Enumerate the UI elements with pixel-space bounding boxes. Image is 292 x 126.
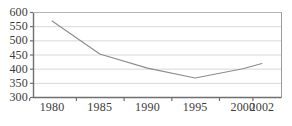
x-axis-label-1995: 1995 — [183, 101, 208, 113]
line-chart: 300350400450500550600 198019851990199520… — [0, 0, 292, 126]
x-axis-label-2002: 2002 — [250, 101, 275, 113]
x-axis-tick-labels: 198019851990199520002002 — [0, 0, 292, 126]
x-axis-label-1980: 1980 — [40, 101, 65, 113]
x-axis-label-1985: 1985 — [87, 101, 112, 113]
x-axis-label-1990: 1990 — [135, 101, 160, 113]
